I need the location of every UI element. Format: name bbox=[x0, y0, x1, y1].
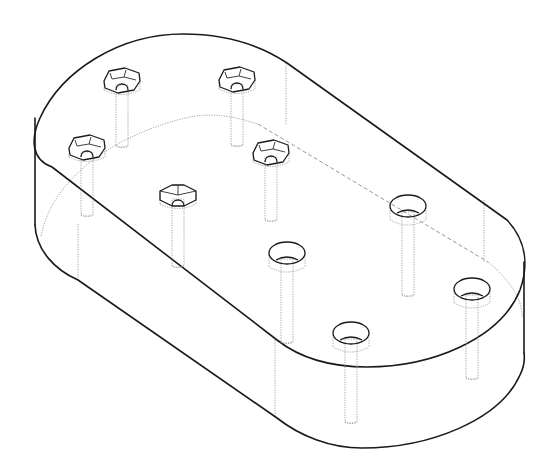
hidden-lines bbox=[41, 63, 522, 418]
hex-screws bbox=[69, 67, 289, 268]
cad-isometric-drawing bbox=[0, 0, 555, 476]
hidden-bottom-left-arc bbox=[41, 115, 258, 236]
top-face-outline bbox=[34, 34, 525, 367]
counterbore-screw bbox=[333, 322, 369, 424]
counterbore-screw bbox=[454, 278, 490, 380]
hidden-bottom-back-edge bbox=[258, 124, 488, 262]
counterbore-screw bbox=[390, 195, 426, 297]
plate-outline bbox=[34, 34, 525, 448]
counterbore-screws bbox=[269, 195, 490, 424]
hex-socket-screw bbox=[219, 67, 255, 147]
hidden-bottom-right-arc bbox=[488, 262, 522, 318]
hex-socket-screw bbox=[253, 140, 289, 222]
counterbore-screw bbox=[269, 242, 305, 344]
